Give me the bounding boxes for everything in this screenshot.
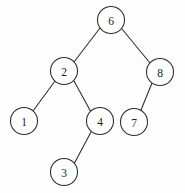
tree-edge-6-2 bbox=[74, 28, 100, 62]
tree-node-label-7: 7 bbox=[131, 117, 137, 129]
tree-edge-2-4 bbox=[74, 81, 91, 112]
tree-node-label-3: 3 bbox=[61, 167, 67, 179]
tree-node-label-4: 4 bbox=[97, 116, 103, 128]
tree-node-2: 2 bbox=[51, 58, 78, 85]
tree-node-1: 1 bbox=[11, 108, 38, 135]
tree-edge-2-1 bbox=[33, 81, 55, 111]
tree-node-4: 4 bbox=[87, 108, 114, 135]
tree-node-6: 6 bbox=[98, 7, 125, 34]
tree-node-label-8: 8 bbox=[157, 67, 163, 79]
tree-edge-8-7 bbox=[141, 83, 152, 110]
tree-node-label-1: 1 bbox=[21, 116, 27, 128]
tree-node-8: 8 bbox=[147, 59, 174, 86]
tree-node-group: 6 2 8 1 4 7 3 bbox=[11, 7, 174, 186]
tree-node-3: 3 bbox=[51, 159, 78, 186]
tree-diagram-canvas: 6 2 8 1 4 7 3 bbox=[0, 0, 185, 193]
tree-node-label-2: 2 bbox=[61, 66, 67, 78]
tree-edge-4-3 bbox=[74, 132, 91, 164]
tree-edge-6-8 bbox=[122, 29, 150, 63]
binary-tree-figure: 6 2 8 1 4 7 3 bbox=[0, 0, 185, 193]
tree-edge-group bbox=[33, 28, 152, 164]
tree-node-7: 7 bbox=[121, 109, 148, 136]
tree-node-label-6: 6 bbox=[108, 15, 114, 27]
